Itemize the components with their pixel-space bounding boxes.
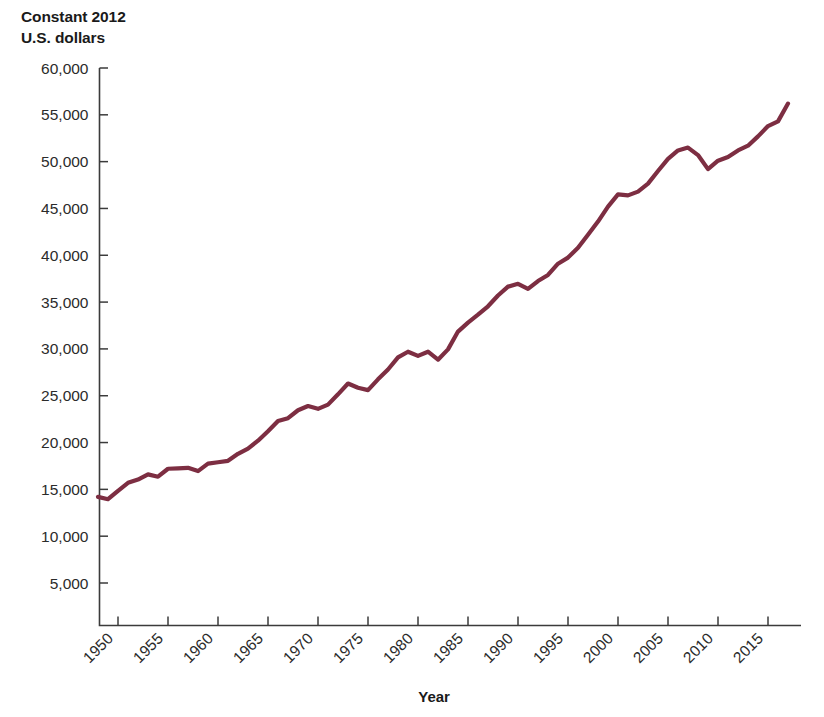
x-tick-label: 2010 — [680, 629, 717, 666]
chart-container: Constant 2012U.S. dollars 5,00010,00015,… — [0, 0, 824, 717]
data-series-line — [98, 104, 788, 500]
y-tick-label: 15,000 — [41, 481, 89, 498]
y-tick-label: 30,000 — [41, 340, 89, 357]
y-tick-label: 40,000 — [41, 247, 89, 264]
y-tick-label: 55,000 — [41, 106, 89, 123]
x-tick-label: 1960 — [180, 629, 217, 666]
chart-plot-area: 5,00010,00015,00020,00025,00030,00035,00… — [0, 0, 824, 717]
x-tick-label: 1990 — [480, 629, 517, 666]
x-tick-label: 1950 — [80, 629, 117, 666]
y-tick-label: 45,000 — [41, 200, 89, 217]
x-tick-label: 1955 — [130, 630, 166, 666]
x-axis-title: Year — [0, 686, 824, 707]
y-tick-label: 25,000 — [41, 387, 89, 404]
y-axis-ticks: 5,00010,00015,00020,00025,00030,00035,00… — [41, 60, 108, 592]
x-tick-label: 1970 — [280, 629, 317, 666]
x-tick-label: 2000 — [580, 629, 617, 666]
x-tick-label: 1985 — [430, 630, 466, 666]
x-axis-ticks: 1950195519601965197019751980198519901995… — [80, 617, 768, 667]
y-tick-label: 35,000 — [41, 294, 89, 311]
y-tick-label: 10,000 — [41, 528, 89, 545]
x-tick-label: 1995 — [530, 630, 566, 666]
x-tick-label: 2015 — [730, 630, 766, 666]
y-tick-label: 50,000 — [41, 153, 89, 170]
y-tick-label: 5,000 — [50, 575, 89, 592]
y-tick-label: 60,000 — [41, 60, 89, 77]
y-tick-label: 20,000 — [41, 434, 89, 451]
x-tick-label: 1975 — [330, 630, 366, 666]
x-tick-label: 2005 — [630, 630, 666, 666]
x-tick-label: 1965 — [230, 630, 266, 666]
x-tick-label: 1980 — [380, 629, 417, 666]
